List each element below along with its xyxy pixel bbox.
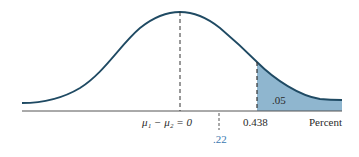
observed-label: .22 (213, 134, 227, 145)
normal-curve (22, 12, 342, 103)
rejection-region (257, 62, 342, 111)
critical-label: 0.438 (243, 117, 268, 128)
alpha-label: .05 (272, 95, 286, 106)
normal-curve-chart (0, 0, 359, 157)
axis-unit-label: Percent (309, 117, 342, 128)
center-label: μ₁ − μ₂ = 0 (142, 117, 192, 128)
